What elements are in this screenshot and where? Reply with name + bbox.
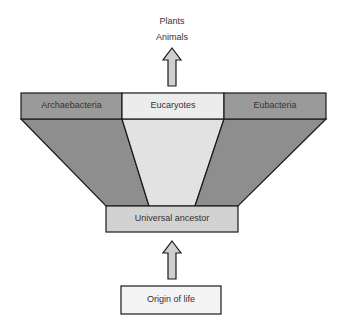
plants-label: Plants [142, 17, 202, 26]
archaebacteria-label: Archaebacteria [21, 101, 122, 110]
animals-label: Animals [142, 33, 202, 42]
phylogeny-diagram: Plants Animals Archaebacteria Eucaryotes… [0, 0, 339, 329]
universal-ancestor-label: Universal ancestor [106, 214, 238, 223]
eucaryotes-label: Eucaryotes [122, 101, 224, 110]
origin-of-life-label: Origin of life [121, 295, 221, 304]
eubacteria-label: Eubacteria [224, 101, 326, 110]
arrow-up-icon [163, 241, 181, 279]
diagram-canvas [0, 0, 339, 329]
arrow-up-icon [163, 48, 181, 86]
